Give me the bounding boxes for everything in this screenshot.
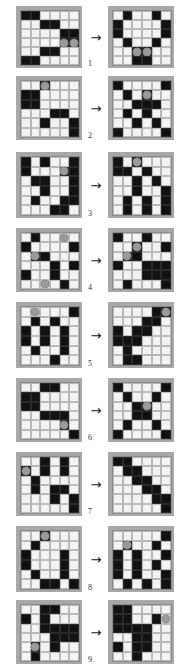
grid-cell[interactable] xyxy=(123,109,133,118)
grid-cell[interactable] xyxy=(132,242,142,251)
grid-cell[interactable] xyxy=(21,346,31,356)
grid-cell[interactable] xyxy=(152,307,162,317)
grid-cell[interactable] xyxy=(60,242,70,251)
grid-cell[interactable] xyxy=(161,29,171,38)
puzzle-4-output-board[interactable] xyxy=(108,228,174,292)
grid-cell[interactable] xyxy=(50,355,60,365)
grid-cell[interactable] xyxy=(123,430,133,439)
grid-cell[interactable] xyxy=(69,579,79,589)
grid-cell[interactable] xyxy=(21,205,31,215)
grid-cell[interactable] xyxy=(142,109,152,118)
grid-cell[interactable] xyxy=(152,346,162,356)
grid-cell[interactable] xyxy=(142,531,152,541)
grid-cell[interactable] xyxy=(142,560,152,570)
grid-cell[interactable] xyxy=(152,118,162,127)
grid-cell[interactable] xyxy=(21,485,31,494)
grid-cell[interactable] xyxy=(21,624,31,633)
grid-cell[interactable] xyxy=(50,652,60,661)
grid-cell[interactable] xyxy=(132,570,142,580)
grid-cell[interactable] xyxy=(31,476,41,485)
grid-cell[interactable] xyxy=(40,118,50,127)
grid-cell[interactable] xyxy=(132,118,142,127)
grid-cell[interactable] xyxy=(31,652,41,661)
grid-cell[interactable] xyxy=(132,326,142,336)
grid-cell[interactable] xyxy=(123,605,133,614)
grid-cell[interactable] xyxy=(40,307,50,317)
grid-cell[interactable] xyxy=(31,261,41,270)
grid-cell[interactable] xyxy=(142,252,152,261)
grid-cell[interactable] xyxy=(161,261,171,270)
grid-cell[interactable] xyxy=(132,605,142,614)
grid-cell[interactable] xyxy=(142,579,152,589)
grid-cell[interactable] xyxy=(142,494,152,503)
grid-cell[interactable] xyxy=(21,411,31,420)
grid-cell[interactable] xyxy=(152,56,162,65)
grid-cell[interactable] xyxy=(69,485,79,494)
grid-cell[interactable] xyxy=(113,196,123,206)
grid-cell[interactable] xyxy=(123,100,133,109)
grid-cell[interactable] xyxy=(40,336,50,346)
grid-cell[interactable] xyxy=(113,252,123,261)
grid-cell[interactable] xyxy=(152,336,162,346)
grid-cell[interactable] xyxy=(21,307,31,317)
grid-cell[interactable] xyxy=(60,118,70,127)
grid-cell[interactable] xyxy=(21,157,31,167)
grid-cell[interactable] xyxy=(152,186,162,196)
grid-cell[interactable] xyxy=(40,383,50,392)
grid-cell[interactable] xyxy=(21,81,31,90)
grid-cell[interactable] xyxy=(50,392,60,401)
grid-cell[interactable] xyxy=(123,494,133,503)
grid-cell[interactable] xyxy=(50,550,60,560)
grid-cell[interactable] xyxy=(132,128,142,137)
grid-cell[interactable] xyxy=(132,336,142,346)
grid-cell[interactable] xyxy=(142,383,152,392)
grid-cell[interactable] xyxy=(113,307,123,317)
grid-cell[interactable] xyxy=(132,270,142,279)
grid-cell[interactable] xyxy=(132,652,142,661)
grid-cell[interactable] xyxy=(161,355,171,365)
grid-cell[interactable] xyxy=(69,176,79,186)
grid-cell[interactable] xyxy=(113,392,123,401)
grid-cell[interactable] xyxy=(113,270,123,279)
grid-cell[interactable] xyxy=(60,430,70,439)
grid-cell[interactable] xyxy=(21,47,31,56)
grid-cell[interactable] xyxy=(50,128,60,137)
grid-cell[interactable] xyxy=(152,642,162,651)
grid-cell[interactable] xyxy=(123,579,133,589)
grid-cell[interactable] xyxy=(40,570,50,580)
grid-cell[interactable] xyxy=(40,402,50,411)
grid-cell[interactable] xyxy=(50,420,60,429)
grid-cell[interactable] xyxy=(123,118,133,127)
grid-cell[interactable] xyxy=(161,90,171,99)
grid-cell[interactable] xyxy=(50,167,60,177)
grid-cell[interactable] xyxy=(161,402,171,411)
grid-cell[interactable] xyxy=(132,317,142,327)
grid-cell[interactable] xyxy=(132,157,142,167)
puzzle-2-output-board[interactable] xyxy=(108,76,174,140)
grid-cell[interactable] xyxy=(21,633,31,642)
grid-cell[interactable] xyxy=(69,605,79,614)
grid-cell[interactable] xyxy=(60,336,70,346)
grid-cell[interactable] xyxy=(31,550,41,560)
grid-cell[interactable] xyxy=(69,20,79,29)
grid-cell[interactable] xyxy=(123,11,133,20)
grid-cell[interactable] xyxy=(21,494,31,503)
grid-cell[interactable] xyxy=(50,176,60,186)
grid-cell[interactable] xyxy=(113,186,123,196)
grid-cell[interactable] xyxy=(69,47,79,56)
grid-cell[interactable] xyxy=(161,476,171,485)
grid-cell[interactable] xyxy=(31,90,41,99)
grid-cell[interactable] xyxy=(161,560,171,570)
grid-cell[interactable] xyxy=(123,633,133,642)
grid-cell[interactable] xyxy=(69,402,79,411)
grid-cell[interactable] xyxy=(31,494,41,503)
grid-cell[interactable] xyxy=(142,642,152,651)
grid-cell[interactable] xyxy=(113,90,123,99)
grid-cell[interactable] xyxy=(31,633,41,642)
grid-cell[interactable] xyxy=(142,118,152,127)
grid-cell[interactable] xyxy=(132,29,142,38)
grid-cell[interactable] xyxy=(31,570,41,580)
grid-cell[interactable] xyxy=(31,128,41,137)
grid-cell[interactable] xyxy=(31,81,41,90)
grid-cell[interactable] xyxy=(40,411,50,420)
